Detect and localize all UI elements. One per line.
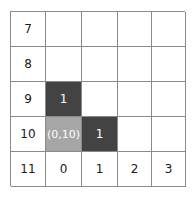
cell-r8-c1 (82, 47, 118, 82)
cell-r7-c2 (118, 12, 152, 47)
row-label-9: 9 (11, 82, 46, 117)
cell-r8-c0 (46, 47, 82, 82)
coordinate-grid: 789110(0,10)1110123 (10, 11, 185, 186)
cell-r9-c3 (152, 82, 186, 117)
cell-r7-c0 (46, 12, 82, 47)
cell-r9-c0: 1 (46, 82, 82, 117)
cell-r8-c3 (152, 47, 186, 82)
row-label-7: 7 (11, 12, 46, 47)
cell-r9-c1 (82, 82, 118, 117)
cell-r10-c2 (118, 117, 152, 152)
cell-r8-c2 (118, 47, 152, 82)
cell-r7-c1 (82, 12, 118, 47)
column-label-0: 0 (46, 152, 82, 187)
cell-r7-c3 (152, 12, 186, 47)
row-label-11: 11 (11, 152, 46, 187)
cell-r10-c0: (0,10) (46, 117, 82, 152)
column-label-1: 1 (82, 152, 118, 187)
column-label-2: 2 (118, 152, 152, 187)
cell-r9-c2 (118, 82, 152, 117)
row-label-10: 10 (11, 117, 46, 152)
row-label-8: 8 (11, 47, 46, 82)
column-label-3: 3 (152, 152, 186, 187)
cell-r10-c1: 1 (82, 117, 118, 152)
cell-r10-c3 (152, 117, 186, 152)
